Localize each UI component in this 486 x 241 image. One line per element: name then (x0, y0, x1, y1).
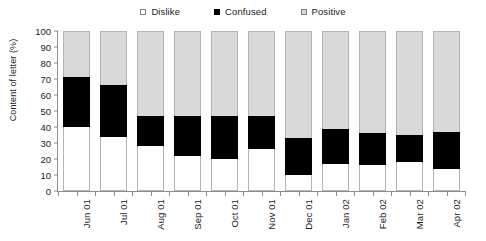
bar-segment-positive (322, 31, 349, 129)
bar-segment-positive (248, 31, 275, 116)
bar-column (137, 31, 164, 191)
x-axis-tick-mark (77, 191, 78, 196)
plot-area: 0102030405060708090100 (58, 31, 465, 191)
bar-segment-positive (211, 31, 238, 116)
chart-legend: Dislike Confused Positive (0, 6, 486, 17)
x-axis-tick-label: Oct 01 (229, 199, 240, 228)
legend-swatch-positive-icon (301, 9, 307, 15)
bar-segment-positive (285, 31, 312, 138)
legend-label-positive: Positive (312, 6, 346, 17)
x-axis-tick-mark (280, 191, 281, 196)
bar-segment-confused (63, 77, 90, 127)
bar-segment-confused (211, 116, 238, 159)
bar-column (433, 31, 460, 191)
x-axis-tick-mark (169, 191, 170, 196)
bar-segment-dislike (137, 146, 164, 191)
x-axis-tick-mark (206, 191, 207, 196)
bar-segment-confused (285, 138, 312, 175)
x-axis-tick-mark (114, 191, 115, 196)
bar-segment-dislike (285, 175, 312, 191)
bar-column (248, 31, 275, 191)
x-axis-tick-mark (410, 191, 411, 196)
bar-column (285, 31, 312, 191)
bar-column (211, 31, 238, 191)
bar-segment-confused (396, 135, 423, 162)
bar-column (359, 31, 386, 191)
x-axis-tick-mark (243, 191, 244, 196)
x-axis-tick-label: Dec 01 (303, 199, 314, 230)
x-axis-tick-mark (428, 191, 429, 196)
y-axis-tick-mark (54, 143, 58, 144)
x-axis-tick-mark (373, 191, 374, 196)
bar-column (396, 31, 423, 191)
stacked-bar-chart: Dislike Confused Positive Content of let… (0, 0, 486, 241)
bar-segment-confused (100, 85, 127, 136)
x-axis-tick-mark (391, 191, 392, 196)
x-axis-tick-mark (447, 191, 448, 196)
bar-segment-positive (433, 31, 460, 132)
bar-segment-positive (100, 31, 127, 85)
bar-segment-positive (63, 31, 90, 77)
x-axis-tick-mark (188, 191, 189, 196)
legend-swatch-dislike-icon (140, 9, 146, 15)
x-axis-tick-label: Jul 01 (118, 199, 129, 225)
x-axis-tick-mark (132, 191, 133, 196)
y-axis-tick-mark (54, 159, 58, 160)
bar-segment-dislike (359, 165, 386, 191)
y-axis-title: Content of letter (%) (8, 5, 18, 155)
bar-segment-dislike (322, 164, 349, 191)
legend-label-confused: Confused (225, 6, 266, 17)
bar-segment-dislike (433, 169, 460, 191)
y-axis-tick-mark (54, 47, 58, 48)
bar-segment-dislike (248, 149, 275, 191)
x-axis-tick-mark (95, 191, 96, 196)
y-axis-tick-mark (54, 127, 58, 128)
x-axis-tick-mark (299, 191, 300, 196)
x-axis-tick-mark (58, 191, 59, 196)
bar-segment-positive (137, 31, 164, 116)
x-axis-tick-label: Sep 01 (192, 199, 203, 230)
bar-segment-positive (359, 31, 386, 133)
bar-segment-confused (248, 116, 275, 150)
bar-segment-dislike (174, 156, 201, 191)
bar-column (174, 31, 201, 191)
y-axis-tick-mark (54, 31, 58, 32)
x-axis-tick-mark (465, 191, 466, 196)
x-axis-tick-mark (336, 191, 337, 196)
x-axis-tick-label: Jun 01 (81, 199, 92, 228)
legend-entry-dislike: Dislike (140, 6, 180, 17)
bar-column (322, 31, 349, 191)
x-axis-tick-mark (317, 191, 318, 196)
x-axis-tick-label: Feb 02 (377, 199, 388, 229)
y-axis-tick-mark (54, 175, 58, 176)
x-axis-tick-label: Mar 02 (414, 199, 425, 229)
bar-segment-positive (174, 31, 201, 116)
legend-swatch-confused-icon (214, 9, 220, 15)
bar-segment-confused (322, 129, 349, 164)
bar-segment-positive (396, 31, 423, 135)
y-axis-tick-mark (54, 63, 58, 64)
legend-label-dislike: Dislike (151, 6, 180, 17)
x-axis-tick-label: Apr 02 (451, 199, 462, 228)
x-axis-tick-label: Nov 01 (266, 199, 277, 230)
bar-segment-confused (433, 132, 460, 169)
x-axis-tick-label: Jan 02 (340, 199, 351, 228)
bar-column (100, 31, 127, 191)
x-axis-tick-mark (262, 191, 263, 196)
bar-segment-dislike (100, 137, 127, 191)
bar-segment-dislike (63, 127, 90, 191)
x-axis-tick-mark (225, 191, 226, 196)
bar-segment-dislike (396, 162, 423, 191)
x-axis-tick-label: Aug 01 (155, 199, 166, 230)
bar-segment-confused (137, 116, 164, 146)
x-axis-tick-mark (354, 191, 355, 196)
bar-column (63, 31, 90, 191)
legend-entry-positive: Positive (301, 6, 346, 17)
y-axis-tick-mark (54, 111, 58, 112)
bar-segment-dislike (211, 159, 238, 191)
y-axis-tick-mark (54, 95, 58, 96)
bar-segment-confused (174, 116, 201, 156)
x-axis-tick-mark (151, 191, 152, 196)
legend-entry-confused: Confused (214, 6, 266, 17)
y-axis-tick-mark (54, 79, 58, 80)
